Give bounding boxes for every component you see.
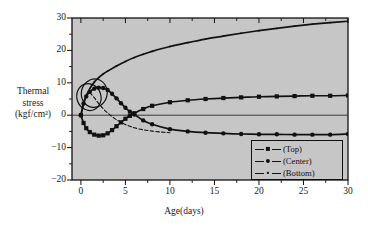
data-point-tiny — [133, 57, 135, 59]
data-point-circle — [132, 112, 136, 116]
x-tick-label: 25 — [288, 186, 318, 196]
data-point-square — [106, 131, 110, 135]
data-point-tiny — [142, 53, 144, 55]
data-point-tiny — [222, 35, 224, 37]
y-axis-label-line-1: Thermal — [2, 86, 64, 98]
data-point-circle — [168, 127, 172, 131]
chart-legend: (Top) (Center) (Bottom) — [251, 140, 343, 180]
data-point-tiny — [93, 81, 95, 83]
data-point-tiny — [151, 50, 153, 52]
data-point-square — [128, 114, 132, 118]
x-tick-label: 0 — [66, 186, 96, 196]
data-point-tiny — [102, 73, 104, 75]
data-point-square — [203, 97, 207, 101]
data-point-tiny — [107, 70, 109, 72]
x-tick-label: 20 — [244, 186, 274, 196]
legend-label-bottom: (Bottom) — [283, 167, 315, 179]
legend-item-bottom: (Bottom) — [255, 167, 339, 179]
y-tick-label: 30 — [36, 12, 66, 22]
data-point-square — [239, 95, 243, 99]
data-point-circle — [141, 118, 145, 122]
data-point-square — [141, 107, 145, 111]
data-point-tiny — [169, 46, 171, 48]
data-point-tiny — [85, 95, 87, 97]
data-point-square — [221, 96, 225, 100]
data-point-tiny — [294, 25, 296, 27]
data-point-circle — [101, 86, 105, 90]
data-point-circle — [346, 132, 350, 136]
data-point-tiny — [276, 27, 278, 29]
legend-item-top: (Top) — [255, 143, 339, 155]
data-point-tiny — [311, 23, 313, 25]
data-point-circle — [186, 129, 190, 133]
data-point-tiny — [240, 32, 242, 34]
data-point-circle — [119, 101, 123, 105]
y-tick-label: 20 — [36, 44, 66, 54]
data-point-circle — [128, 109, 132, 113]
data-point-tiny — [205, 38, 207, 40]
data-point-circle — [328, 132, 332, 136]
data-point-square — [292, 94, 296, 98]
data-point-square — [168, 100, 172, 104]
data-point-circle — [310, 132, 314, 136]
data-point-square — [123, 117, 127, 121]
y-axis-label-line-2: stress — [2, 98, 64, 110]
y-tick-label: −10 — [36, 142, 66, 152]
x-tick-label: 15 — [199, 186, 229, 196]
data-point-square — [310, 94, 314, 98]
data-point-square — [114, 124, 118, 128]
data-point-tiny — [80, 114, 82, 116]
data-point-circle — [150, 122, 154, 126]
data-point-circle — [110, 92, 114, 96]
data-point-square — [97, 134, 101, 138]
legend-marker-circle-icon — [255, 155, 281, 167]
x-axis-label: Age(days) — [0, 206, 368, 216]
data-point-circle — [257, 132, 261, 136]
data-point-circle — [123, 106, 127, 110]
data-point-tiny — [258, 30, 260, 32]
data-point-square — [84, 126, 88, 130]
legend-marker-square-icon — [255, 143, 281, 155]
data-point-circle — [221, 131, 225, 135]
data-point-tiny — [98, 77, 100, 79]
data-point-tiny — [125, 61, 127, 63]
data-point-square — [92, 133, 96, 137]
data-point-tiny — [329, 22, 331, 24]
data-point-square — [150, 104, 154, 108]
y-tick-label: 0 — [36, 109, 66, 119]
thermal-stress-chart: Thermal stress (kgf/cm²) Age(days) −20−1… — [0, 0, 368, 229]
data-point-circle — [239, 132, 243, 136]
data-point-tiny — [187, 42, 189, 44]
data-point-tiny — [116, 65, 118, 67]
data-point-circle — [114, 96, 118, 100]
data-point-square — [275, 94, 279, 98]
legend-item-center: (Center) — [255, 155, 339, 167]
data-point-tiny — [89, 88, 91, 90]
data-point-square — [257, 95, 261, 99]
legend-marker-tiny-icon — [255, 167, 281, 179]
y-tick-label: −20 — [36, 174, 66, 184]
data-point-circle — [203, 130, 207, 134]
data-point-square — [101, 133, 105, 137]
data-point-circle — [292, 132, 296, 136]
data-point-square — [88, 130, 92, 134]
data-point-circle — [275, 132, 279, 136]
data-point-square — [346, 93, 350, 97]
legend-label-top: (Top) — [283, 143, 302, 155]
data-point-square — [110, 128, 114, 132]
data-point-square — [328, 94, 332, 98]
data-point-square — [186, 98, 190, 102]
x-tick-label: 5 — [110, 186, 140, 196]
x-tick-label: 30 — [333, 186, 363, 196]
x-tick-label: 10 — [155, 186, 185, 196]
data-point-square — [81, 121, 85, 125]
legend-label-center: (Center) — [283, 155, 312, 167]
y-tick-label: 10 — [36, 77, 66, 87]
